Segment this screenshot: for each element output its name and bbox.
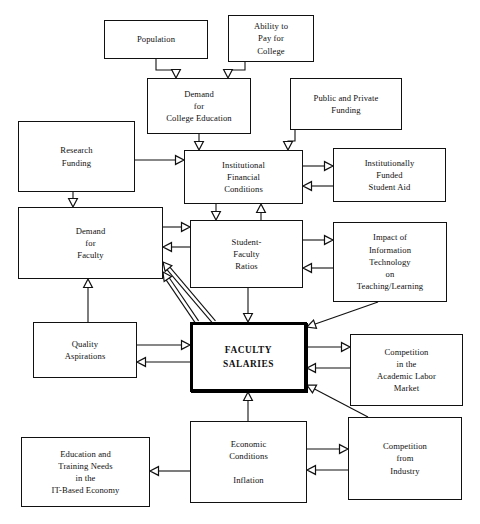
edge-e26-arrowhead [307,466,316,475]
edge-e19-arrowhead [342,343,351,352]
node-it_impact[interactable]: Impact of Information Technology on Teac… [333,222,447,302]
node-label-ability_to_pay: Ability to Pay for College [251,20,291,57]
diagram-canvas: PopulationAbility to Pay for CollegeDema… [0,0,480,524]
node-label-it_impact: Impact of Information Technology on Teac… [354,231,426,292]
node-academic_labor[interactable]: Competition in the Academic Labor Market [350,334,463,406]
edge-e9-arrowhead [212,212,221,221]
node-comp_industry[interactable]: Competition from Industry [348,417,462,500]
node-label-quality_asp: Quality Aspirations [62,338,109,362]
node-label-it_economy: Education and Training Needs in the IT-B… [49,448,123,497]
edge-e1-arrowhead [172,70,181,79]
edge-e13-arrowhead [325,236,334,245]
edge-e7-arrowhead [325,162,334,171]
edge-e2-line [228,62,245,70]
node-ability_to_pay[interactable]: Ability to Pay for College [228,15,314,62]
edge-e28-arrowhead [163,262,172,271]
edge-e2-arrowhead [224,70,233,79]
node-label-sf_ratios: Student- Faculty Ratios [229,236,265,273]
edge-e1-line [156,59,176,70]
node-label-public_private: Public and Private Funding [311,92,382,116]
node-label-demand_college: Demand for College Education [163,88,234,125]
edge-e17-arrowhead [182,341,191,350]
edge-e16-arrowhead [244,314,253,323]
node-sf_ratios[interactable]: Student- Faculty Ratios [190,220,303,288]
edge-e5-arrowhead [176,156,185,165]
node-label-comp_industry: Competition from Industry [380,440,430,477]
edge-e24-arrowhead [150,467,159,476]
edge-e6-arrowhead [69,199,78,208]
node-label-student_aid: Institutionally Funded Student Aid [362,157,418,194]
edge-e8-arrowhead [303,182,312,191]
node-student_aid[interactable]: Institutionally Funded Student Aid [333,148,446,202]
edge-e20-arrowhead [307,364,316,373]
edge-e23-arrowhead [244,392,253,401]
edge-e18-arrowhead [137,358,146,367]
node-population[interactable]: Population [104,20,208,59]
node-demand_college[interactable]: Demand for College Education [147,78,251,134]
edge-e15-arrowhead [84,279,93,288]
node-label-research_funding: Research Funding [57,144,95,168]
edge-e25-arrowhead [340,445,349,454]
edge-e21-line [315,302,378,324]
node-public_private[interactable]: Public and Private Funding [290,78,402,130]
node-label-demand_faculty: Demand for Faculty [73,225,109,262]
edge-e4-line [288,130,295,142]
node-inst_financial[interactable]: Institutional Financial Conditions [184,150,303,204]
node-quality_asp[interactable]: Quality Aspirations [33,322,137,378]
edge-e4-arrowhead [284,142,293,151]
node-research_funding[interactable]: Research Funding [18,121,135,192]
node-label-academic_labor: Competition in the Academic Labor Market [374,346,439,395]
node-label-faculty_salaries: FACULTY SALARIES [220,343,277,371]
node-economic_cond[interactable]: Economic Conditions Inflation [190,421,307,503]
node-demand_faculty[interactable]: Demand for Faculty [18,207,163,279]
node-faculty_salaries[interactable]: FACULTY SALARIES [190,322,307,392]
edge-e14-arrowhead [303,264,312,273]
node-label-inst_financial: Institutional Financial Conditions [219,159,268,196]
edge-e11-arrowhead [182,223,191,232]
edge-e10-arrowhead [257,204,266,213]
node-label-economic_cond: Economic Conditions Inflation [226,438,271,487]
node-it_economy[interactable]: Education and Training Needs in the IT-B… [21,437,150,507]
edge-e3-arrowhead [195,142,204,151]
edge-e21-arrowhead [307,320,316,328]
node-label-population: Population [134,33,178,45]
edge-e22-arrowhead [307,385,317,393]
edge-e12-arrowhead [163,243,172,252]
